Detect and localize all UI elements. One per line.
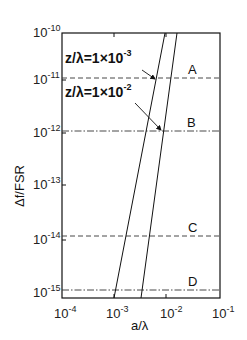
series-line-z1e-3 (114, 33, 165, 298)
y-tick-label: 10-10 (33, 23, 60, 40)
x-axis-label: a/λ (131, 318, 149, 333)
y-tick-label: 10-13 (33, 175, 60, 192)
annotation-z1e-2: z/λ=1×10-2 (65, 82, 131, 100)
y-tick-label: 10-12 (33, 123, 60, 140)
x-tick-label: 10-4 (54, 304, 76, 321)
y-axis-label: Δf/FSR (12, 165, 27, 207)
annotation-z1e-3: z/λ=1×10-3 (65, 48, 131, 66)
y-tick-label: 10-14 (33, 230, 60, 247)
y-tick-label: 10-15 (33, 283, 60, 300)
label-c: C (188, 220, 197, 235)
chart-svg: z/λ=1×10-3 z/λ=1×10-2 A B C D 10-10 10-1… (0, 0, 247, 340)
x-tick-label: 10-1 (212, 304, 234, 321)
label-a: A (188, 62, 197, 77)
x-tick-label: 10-2 (160, 304, 182, 321)
label-b: B (187, 115, 196, 130)
annotation-arrow-2 (135, 103, 161, 130)
label-d: D (188, 274, 197, 289)
x-tick-label: 10-3 (106, 304, 128, 321)
y-tick-label: 10-11 (33, 70, 60, 87)
y-tick-labels: 10-10 10-11 10-12 10-13 10-14 10-15 (33, 23, 60, 300)
